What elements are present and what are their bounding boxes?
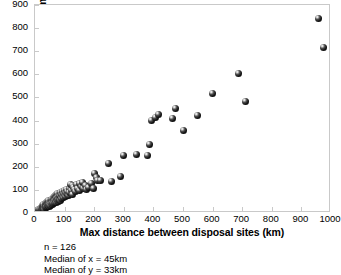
- x-tick-label: 1000: [312, 214, 341, 224]
- data-point: [180, 127, 187, 134]
- x-tick-mark: [242, 207, 243, 211]
- y-tick-mark: [35, 5, 39, 6]
- x-axis-label: Max distance between disposal sites (km): [34, 226, 330, 238]
- y-tick-mark: [35, 144, 39, 145]
- y-tick-mark: [35, 97, 39, 98]
- y-tick-mark: [35, 74, 39, 75]
- y-tick-label: 200: [0, 161, 28, 171]
- y-tick-mark: [35, 51, 39, 52]
- x-tick-mark: [124, 207, 125, 211]
- scatter-plot-figure: Max distance from home (km) 010020030040…: [0, 0, 341, 275]
- data-point: [105, 160, 112, 167]
- y-tick-label: 800: [0, 22, 28, 32]
- y-tick-label: 700: [0, 45, 28, 55]
- y-tick-label: 300: [0, 138, 28, 148]
- data-point: [172, 105, 179, 112]
- data-point: [242, 98, 249, 105]
- data-point: [146, 141, 153, 148]
- annotation-line: Median of y = 33km: [44, 264, 127, 275]
- data-point: [133, 151, 140, 158]
- y-tick-label: 100: [0, 184, 28, 194]
- x-tick-mark: [213, 207, 214, 211]
- x-tick-mark: [94, 207, 95, 211]
- data-point: [155, 111, 162, 118]
- data-point: [144, 152, 151, 159]
- y-tick-mark: [35, 121, 39, 122]
- annotation-line: Median of x = 45km: [44, 253, 127, 265]
- data-point: [117, 173, 124, 180]
- data-point: [120, 152, 127, 159]
- data-point: [108, 178, 115, 185]
- annotation-line: n = 126: [44, 241, 127, 253]
- data-point: [209, 90, 216, 97]
- x-tick-mark: [301, 207, 302, 211]
- x-tick-mark: [153, 207, 154, 211]
- x-tick-mark: [65, 207, 66, 211]
- y-tick-mark: [35, 190, 39, 191]
- y-tick-label: 600: [0, 68, 28, 78]
- y-tick-mark: [35, 28, 39, 29]
- plot-area: [34, 4, 330, 212]
- data-point: [194, 112, 201, 119]
- y-tick-label: 500: [0, 91, 28, 101]
- data-point: [320, 44, 327, 51]
- data-point: [90, 185, 97, 192]
- data-point: [97, 177, 104, 184]
- y-tick-label: 400: [0, 115, 28, 125]
- y-tick-mark: [35, 167, 39, 168]
- data-point: [235, 70, 242, 77]
- annotation-block: n = 126Median of x = 45kmMedian of y = 3…: [44, 241, 127, 275]
- y-tick-label: 900: [0, 0, 28, 9]
- x-tick-mark: [272, 207, 273, 211]
- x-tick-mark: [183, 207, 184, 211]
- data-point: [315, 15, 322, 22]
- data-point: [169, 115, 176, 122]
